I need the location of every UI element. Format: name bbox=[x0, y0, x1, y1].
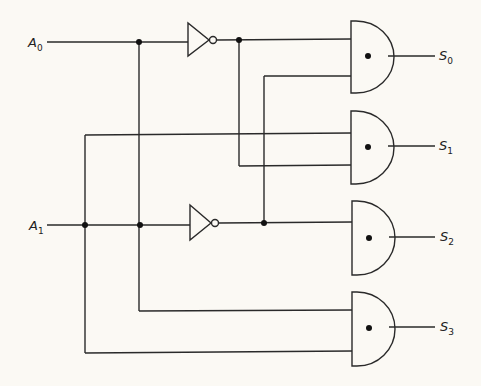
and-gate-s3 bbox=[352, 292, 435, 366]
wire-not-a0-to-s1 bbox=[239, 165, 351, 166]
not-bubble-a1 bbox=[212, 220, 219, 227]
output-label-s1: S1 bbox=[439, 138, 453, 156]
junction-dot bbox=[136, 39, 142, 45]
wire-a1-to-s1 bbox=[85, 133, 351, 135]
not-bubble-a0 bbox=[210, 37, 217, 44]
output-label-s2: S2 bbox=[440, 229, 454, 247]
output-label-s0: S0 bbox=[439, 48, 453, 66]
wire-a1-to-s3 bbox=[85, 351, 352, 353]
junction-dot bbox=[236, 37, 242, 43]
decoder-circuit: A0 A1 S0 S1 S2 S3 bbox=[0, 0, 481, 386]
junction-dot bbox=[137, 222, 143, 228]
wire-not-a1-to-s2 bbox=[219, 222, 352, 223]
and-gate-s1 bbox=[351, 111, 435, 184]
input-label-a1: A1 bbox=[28, 218, 44, 236]
junction-dot bbox=[82, 222, 88, 228]
not-gate-a1 bbox=[190, 205, 211, 240]
output-label-s3: S3 bbox=[440, 319, 454, 337]
wire-a0-to-s3 bbox=[139, 310, 352, 311]
junction-dot bbox=[261, 220, 267, 226]
and-gate-s0 bbox=[351, 21, 435, 93]
input-label-a0: A0 bbox=[27, 35, 43, 53]
not-gate-a0 bbox=[188, 23, 209, 56]
and-gate-s2 bbox=[352, 201, 435, 275]
